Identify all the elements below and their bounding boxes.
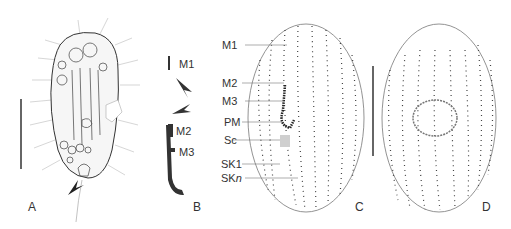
label-c-sk1: SK1 xyxy=(221,159,242,170)
label-c-m2: M2 xyxy=(222,78,237,89)
panel-a-cell xyxy=(21,18,140,222)
panel-label-d: D xyxy=(482,201,491,213)
label-c-skn-base: SK xyxy=(221,172,236,184)
label-c-skn-italic: n xyxy=(236,172,242,184)
panel-label-b: B xyxy=(193,201,201,213)
panel-d-dorsal xyxy=(382,24,496,212)
panel-label-a: A xyxy=(28,201,36,213)
label-c-sc: Sc xyxy=(224,135,237,146)
panel-c-ventral xyxy=(232,24,364,212)
label-c-skn: SKn xyxy=(221,173,242,184)
label-b-m2: M2 xyxy=(176,126,191,137)
label-c-pm: PM xyxy=(224,117,241,128)
label-c-m1: M1 xyxy=(222,40,237,51)
panel-label-c: C xyxy=(355,201,364,213)
label-c-m3: M3 xyxy=(222,96,237,107)
figure-canvas xyxy=(0,0,511,229)
label-b-m1: M1 xyxy=(179,59,194,70)
label-b-m3: M3 xyxy=(179,147,194,158)
